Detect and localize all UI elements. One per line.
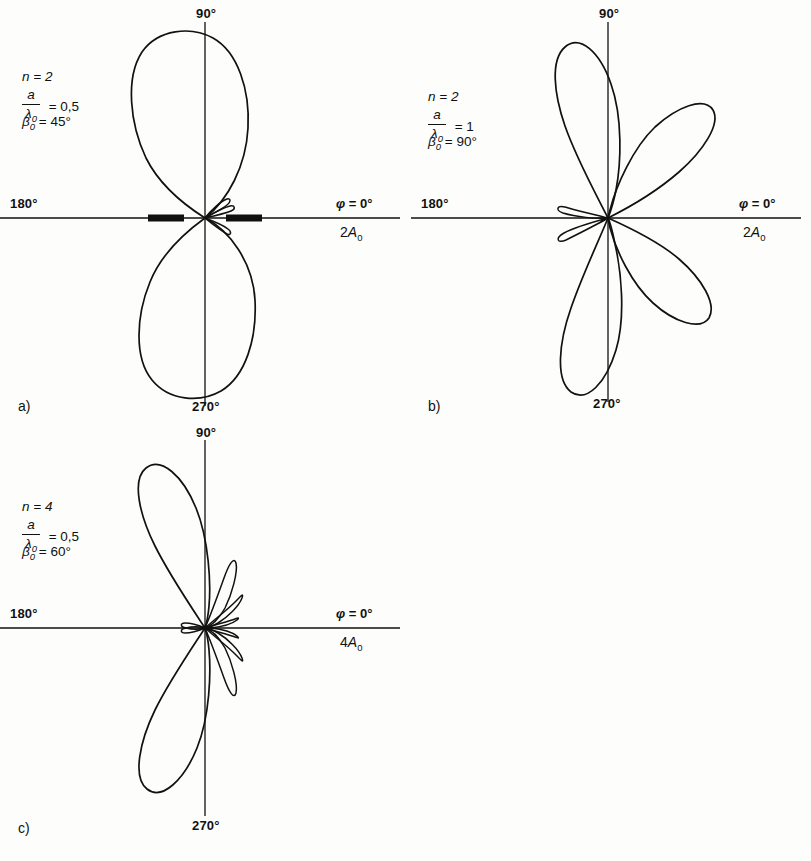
amplitude-prefix-b: 2 (743, 224, 751, 240)
panel-tag-c: c) (18, 820, 30, 836)
lambda-sub-a: 0 (32, 112, 37, 123)
parameter-block-b: n = 2 a λ0 = 1 β0 = 90° (428, 88, 477, 152)
beta-value-b: = 90° (445, 134, 477, 149)
lambda-sub-c: 0 (32, 542, 37, 553)
angle-label-left-c: 180° (10, 606, 38, 621)
polar-chart-a (0, 0, 411, 430)
side-lobe-left-upper (558, 207, 608, 219)
side-lobe-left-lower (558, 218, 608, 241)
phi-value-c: = 0° (345, 606, 372, 621)
main-lobe-upper-right (608, 104, 715, 218)
param-ratio-b: a λ0 = 1 (428, 107, 477, 133)
param-ratio-c: a λ0 = 0,5 (22, 517, 79, 543)
parameter-block-c: n = 4 a λ0 = 0,5 β0 = 60° (22, 498, 79, 562)
angle-label-top-a: 90° (196, 6, 216, 21)
fraction-numerator-b: a (428, 106, 446, 125)
amplitude-prefix-a: 2 (340, 224, 348, 240)
angle-label-right-b: φ = 0° (739, 196, 775, 211)
main-lobe-lower-right (608, 218, 711, 324)
polar-plot-panel-a: 90° 180° 270° φ = 0° 2A0 n = 2 a λ0 = 0,… (0, 0, 411, 430)
main-lobe-upper-left (138, 464, 209, 628)
main-lobe-lower-left (560, 218, 621, 395)
lambda-symbol-c: λ (25, 536, 32, 551)
param-n-b: n = 2 (428, 88, 477, 107)
angle-label-right-c: φ = 0° (336, 606, 372, 621)
amplitude-symbol-a: A (348, 224, 357, 240)
lambda-sub-b: 0 (438, 132, 443, 143)
beta-value-a: = 45° (39, 114, 71, 129)
fraction-numerator-c: a (22, 516, 40, 535)
angle-label-bottom-a: 270° (192, 399, 220, 414)
amplitude-symbol-c: A (348, 634, 357, 650)
polar-plot-panel-c: 90° 180° 270° φ = 0° 4A0 n = 4 a λ0 = 0,… (0, 430, 411, 861)
fraction-numerator-a: a (22, 86, 40, 105)
panel-tag-a: a) (18, 398, 30, 414)
param-n-c: n = 4 (22, 498, 79, 517)
amplitude-sub-a: 0 (357, 232, 362, 243)
fraction-denominator-b: λ0 (428, 125, 446, 145)
angle-label-left-b: 180° (421, 196, 449, 211)
main-lobe-lower (139, 218, 255, 398)
param-n-a: n = 2 (22, 68, 79, 87)
angle-label-top-c: 90° (196, 425, 216, 440)
main-lobe-upper (131, 31, 248, 218)
tick-mark-right (226, 215, 262, 222)
phi-value-b: = 0° (748, 196, 775, 211)
amplitude-symbol-b: A (751, 224, 760, 240)
lambda-symbol-a: λ (25, 106, 32, 121)
main-lobe-lower-left (139, 628, 210, 792)
fraction-denominator-a: λ0 (22, 105, 40, 125)
parameter-block-a: n = 2 a λ0 = 0,5 β0 = 45° (22, 68, 79, 132)
panel-tag-b: b) (428, 398, 440, 414)
amplitude-label-c: 4A0 (340, 634, 362, 653)
figure-sheet: 90° 180° 270° φ = 0° 2A0 n = 2 a λ0 = 0,… (0, 0, 811, 861)
angle-label-bottom-c: 270° (192, 818, 220, 833)
angle-label-left-a: 180° (10, 196, 38, 211)
fraction-c: a λ0 (22, 516, 40, 555)
amplitude-sub-b: 0 (760, 232, 765, 243)
main-lobe-upper-left (555, 43, 620, 218)
angle-label-right-a: φ = 0° (336, 196, 372, 211)
phi-symbol-b: φ (739, 196, 748, 211)
param-ratio-a: a λ0 = 0,5 (22, 87, 79, 113)
polar-plot-panel-b: 90° 180° 270° φ = 0° 2A0 n = 2 a λ0 = 1 … (411, 0, 811, 430)
tick-mark-left (148, 215, 184, 222)
phi-value-a: = 0° (345, 196, 372, 211)
phi-symbol-a: φ (336, 196, 345, 211)
fraction-a: a λ0 (22, 86, 40, 125)
amplitude-label-b: 2A0 (743, 224, 765, 243)
angle-label-bottom-b: 270° (593, 396, 621, 411)
polar-chart-b (411, 0, 811, 430)
amplitude-sub-c: 0 (357, 642, 362, 653)
fraction-b: a λ0 (428, 106, 446, 145)
phi-symbol-c: φ (336, 606, 345, 621)
beta-value-c: = 60° (39, 544, 71, 559)
amplitude-prefix-c: 4 (340, 634, 348, 650)
angle-label-top-b: 90° (599, 6, 619, 21)
lambda-symbol-b: λ (431, 126, 438, 141)
amplitude-label-a: 2A0 (340, 224, 362, 243)
fraction-denominator-c: λ0 (22, 535, 40, 555)
